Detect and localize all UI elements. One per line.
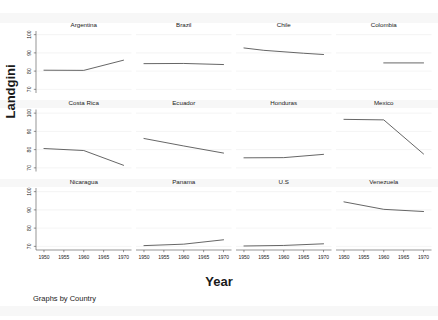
panel-title: Nicaragua (70, 178, 99, 185)
x-tick-label: 1950 (38, 254, 49, 260)
x-tick-label: 1955 (158, 254, 169, 260)
y-tick-label: 70 (26, 243, 32, 249)
panel-chile: Chile (236, 21, 332, 94)
panel-title: Argentina (71, 21, 98, 28)
chart-svg: Argentina708090100BrazilChileColombiaCos… (0, 0, 438, 320)
x-tick-label: 1950 (138, 254, 149, 260)
panel-title: Honduras (270, 99, 297, 106)
x-tick-label: 1970 (118, 254, 129, 260)
panel-title: Chile (277, 21, 292, 28)
panel-ecuador: Ecuador (136, 99, 232, 172)
x-tick-label: 1965 (398, 254, 409, 260)
y-tick-label: 80 (26, 68, 32, 74)
chart-figure: Argentina708090100BrazilChileColombiaCos… (0, 0, 438, 320)
panel-mexico: Mexico (336, 99, 432, 172)
small-multiples-plot: Argentina708090100BrazilChileColombiaCos… (0, 0, 438, 320)
y-tick-label: 100 (26, 30, 32, 39)
x-tick-label: 1960 (78, 254, 89, 260)
y-tick-label: 80 (26, 147, 32, 153)
x-tick-label: 1965 (198, 254, 209, 260)
x-tick-label: 1965 (98, 254, 109, 260)
x-tick-label: 1970 (418, 254, 429, 260)
panel-title: Ecuador (172, 99, 195, 106)
panel-brazil: Brazil (136, 21, 232, 94)
y-tick-label: 90 (26, 207, 32, 213)
x-tick-label: 1970 (318, 254, 329, 260)
y-tick-label: 100 (26, 187, 32, 196)
x-tick-label: 1965 (298, 254, 309, 260)
y-axis-label-text: Landgini (3, 64, 18, 118)
x-tick-label: 1950 (338, 254, 349, 260)
y-tick-label: 70 (26, 86, 32, 92)
panel-title: Venezuela (369, 178, 398, 185)
x-tick-label: 1960 (278, 254, 289, 260)
x-tick-label: 1960 (178, 254, 189, 260)
panel-costa-rica: Costa Rica708090100 (26, 99, 132, 172)
y-tick-label: 90 (26, 50, 32, 56)
panel-title: Mexico (374, 99, 394, 106)
panel-venezuela: Venezuela19501955196019651970 (336, 178, 432, 260)
panel-title: U.S (279, 178, 289, 185)
x-axis-label: Year (0, 274, 438, 289)
x-tick-label: 1960 (378, 254, 389, 260)
panel-title: Colombia (371, 21, 398, 28)
x-tick-label: 1970 (218, 254, 229, 260)
y-tick-label: 80 (26, 225, 32, 231)
panel-argentina: Argentina708090100 (26, 21, 132, 94)
panel-honduras: Honduras (236, 99, 332, 172)
panel-title: Brazil (176, 21, 191, 28)
panel-title: Costa Rica (69, 99, 100, 106)
x-tick-label: 1955 (58, 254, 69, 260)
y-axis-label: Landgini (3, 103, 18, 119)
chart-footnote: Graphs by Country (33, 294, 96, 303)
panel-colombia: Colombia (336, 21, 432, 94)
x-tick-label: 1955 (358, 254, 369, 260)
y-tick-label: 70 (26, 165, 32, 171)
panel-title: Panama (172, 178, 196, 185)
panel-u-s: U.S19501955196019651970 (236, 178, 332, 260)
x-tick-label: 1950 (238, 254, 249, 260)
y-tick-label: 90 (26, 128, 32, 134)
x-tick-label: 1955 (258, 254, 269, 260)
panel-panama: Panama19501955196019651970 (136, 178, 232, 260)
panel-nicaragua: Nicaragua70809010019501955196019651970 (26, 178, 132, 260)
y-tick-label: 100 (26, 109, 32, 118)
